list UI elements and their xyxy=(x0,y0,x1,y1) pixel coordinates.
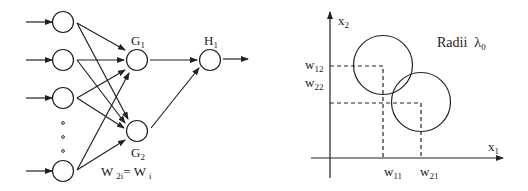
h1-label: H1 xyxy=(204,34,218,50)
projection-w1 xyxy=(330,66,383,158)
g2-node xyxy=(127,121,148,142)
g1-label: G1 xyxy=(131,34,145,50)
diagram-canvas xyxy=(0,0,528,191)
ellipsis-dot xyxy=(62,136,65,139)
g1-node xyxy=(127,50,148,71)
input-node-4 xyxy=(53,161,74,182)
edge-g2-h1 xyxy=(151,68,199,128)
ellipsis-dot xyxy=(62,150,65,153)
h1-node xyxy=(200,50,221,71)
input-node-3 xyxy=(53,88,74,109)
edge-in4-g1 xyxy=(77,73,129,170)
radii-annotation: Radii λ0 xyxy=(437,36,486,52)
input-node-1 xyxy=(53,12,74,33)
projection-w2 xyxy=(330,103,421,158)
weight-equation: W 2i= W i xyxy=(101,165,151,181)
g2-label: G2 xyxy=(131,146,145,162)
w12-label: w12 xyxy=(305,58,323,74)
circle-2 xyxy=(392,73,451,132)
w22-label: w22 xyxy=(305,76,323,92)
x2-axis-label: x2 xyxy=(338,14,349,30)
w11-label: w11 xyxy=(384,165,402,181)
w21-label: w21 xyxy=(420,165,438,181)
x1-axis-label: x1 xyxy=(488,140,499,156)
ellipsis-dot xyxy=(62,122,65,125)
input-node-2 xyxy=(53,50,74,71)
